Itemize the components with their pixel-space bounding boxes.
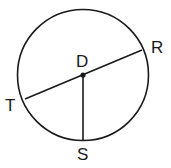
label-R: R <box>151 38 163 57</box>
label-S: S <box>77 145 88 164</box>
label-D: D <box>76 52 88 71</box>
label-T: T <box>5 96 15 115</box>
center-point <box>80 72 85 77</box>
circle-diagram: D R T S <box>0 0 171 168</box>
